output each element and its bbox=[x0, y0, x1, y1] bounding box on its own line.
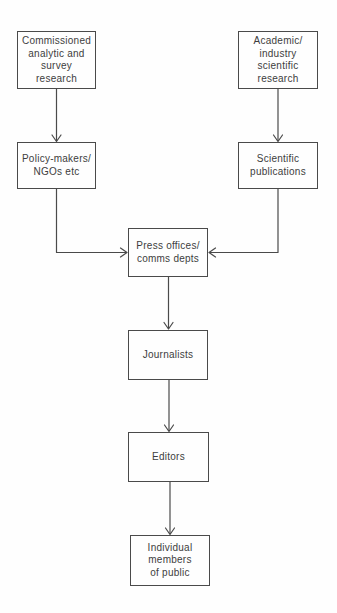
node-commissioned-research-label: Commissioned analytic and survey researc… bbox=[22, 35, 91, 85]
node-editors: Editors bbox=[128, 432, 209, 482]
node-policy-makers-label: Policy-makers/ NGOs etc bbox=[22, 153, 91, 178]
node-editors-label: Editors bbox=[152, 451, 185, 464]
node-press-offices: Press offices/ comms depts bbox=[128, 228, 208, 277]
connector-academic-to-scientific bbox=[274, 89, 283, 142]
connector-scientific-to-press bbox=[209, 189, 278, 257]
node-academic-research-label: Academic/ industry scientific research bbox=[254, 35, 303, 85]
node-individual-public: Individual members of public bbox=[130, 535, 210, 586]
node-scientific-publications-label: Scientific publications bbox=[250, 153, 306, 178]
connector-layer bbox=[0, 0, 337, 613]
connector-policy-to-press bbox=[57, 189, 128, 257]
node-academic-research: Academic/ industry scientific research bbox=[238, 31, 318, 89]
connector-editors-to-public bbox=[166, 482, 175, 535]
node-individual-public-label: Individual members of public bbox=[148, 542, 193, 580]
node-commissioned-research: Commissioned analytic and survey researc… bbox=[17, 31, 96, 89]
node-press-offices-label: Press offices/ comms depts bbox=[136, 240, 199, 265]
node-journalists: Journalists bbox=[128, 330, 208, 380]
connector-press-to-journalists bbox=[164, 277, 173, 329]
flowchart-diagram: Commissioned analytic and survey researc… bbox=[0, 0, 337, 613]
node-journalists-label: Journalists bbox=[143, 349, 194, 362]
connector-journalists-to-editors bbox=[165, 380, 174, 432]
connector-commissioned-to-policy bbox=[52, 89, 61, 142]
node-policy-makers: Policy-makers/ NGOs etc bbox=[17, 142, 96, 189]
node-scientific-publications: Scientific publications bbox=[238, 142, 318, 189]
